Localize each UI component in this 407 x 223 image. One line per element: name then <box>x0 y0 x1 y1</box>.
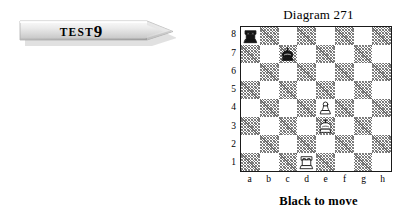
square-c1[interactable] <box>279 153 298 171</box>
square-a8[interactable] <box>241 27 260 45</box>
square-e4[interactable] <box>316 99 335 117</box>
square-f6[interactable] <box>335 63 354 81</box>
square-h2[interactable] <box>372 135 391 153</box>
file-label-d: d <box>297 173 316 185</box>
square-a6[interactable] <box>241 63 260 81</box>
square-g6[interactable] <box>354 63 373 81</box>
square-c8[interactable] <box>279 27 298 45</box>
square-h7[interactable] <box>372 45 391 63</box>
square-b3[interactable] <box>260 117 279 135</box>
diagram-title: Diagram 271 <box>222 6 397 23</box>
square-c7[interactable] <box>279 45 298 63</box>
square-d6[interactable] <box>297 63 316 81</box>
rank-labels: 87654321 <box>222 26 238 172</box>
square-a2[interactable] <box>241 135 260 153</box>
square-e6[interactable] <box>316 63 335 81</box>
square-c5[interactable] <box>279 81 298 99</box>
rank-label-4: 4 <box>222 99 238 117</box>
square-b7[interactable] <box>260 45 279 63</box>
rank-label-1: 1 <box>222 154 238 172</box>
piece-white-rook-d1[interactable] <box>297 153 316 171</box>
square-g5[interactable] <box>354 81 373 99</box>
file-label-a: a <box>240 173 259 185</box>
square-e8[interactable] <box>316 27 335 45</box>
square-c2[interactable] <box>279 135 298 153</box>
piece-black-rook-a8[interactable] <box>241 27 260 45</box>
square-d3[interactable] <box>297 117 316 135</box>
square-a5[interactable] <box>241 81 260 99</box>
square-f5[interactable] <box>335 81 354 99</box>
square-a4[interactable] <box>241 99 260 117</box>
rank-label-6: 6 <box>222 63 238 81</box>
rank-label-5: 5 <box>222 81 238 99</box>
square-h5[interactable] <box>372 81 391 99</box>
diagram-caption: Black to move <box>222 194 397 209</box>
square-d4[interactable] <box>297 99 316 117</box>
square-e3[interactable] <box>316 117 335 135</box>
file-label-f: f <box>335 173 354 185</box>
square-d7[interactable] <box>297 45 316 63</box>
square-e5[interactable] <box>316 81 335 99</box>
square-b8[interactable] <box>260 27 279 45</box>
test-banner-word: TEST <box>60 26 94 38</box>
square-h8[interactable] <box>372 27 391 45</box>
square-e1[interactable] <box>316 153 335 171</box>
test-banner-label: TEST9 <box>17 21 145 41</box>
square-b6[interactable] <box>260 63 279 81</box>
square-b4[interactable] <box>260 99 279 117</box>
square-d8[interactable] <box>297 27 316 45</box>
rank-label-3: 3 <box>222 117 238 135</box>
square-c4[interactable] <box>279 99 298 117</box>
square-e7[interactable] <box>316 45 335 63</box>
piece-white-king-e3[interactable] <box>316 117 335 135</box>
square-c6[interactable] <box>279 63 298 81</box>
square-g7[interactable] <box>354 45 373 63</box>
square-b2[interactable] <box>260 135 279 153</box>
piece-black-king-c7[interactable] <box>279 45 298 63</box>
square-g3[interactable] <box>354 117 373 135</box>
piece-white-pawn-e4[interactable] <box>316 99 335 117</box>
square-d1[interactable] <box>297 153 316 171</box>
square-c3[interactable] <box>279 117 298 135</box>
square-a3[interactable] <box>241 117 260 135</box>
board-grid <box>241 27 391 171</box>
square-h4[interactable] <box>372 99 391 117</box>
square-h3[interactable] <box>372 117 391 135</box>
file-label-h: h <box>373 173 392 185</box>
file-label-b: b <box>259 173 278 185</box>
square-f3[interactable] <box>335 117 354 135</box>
test-banner-number: 9 <box>94 22 103 41</box>
square-g2[interactable] <box>354 135 373 153</box>
square-b1[interactable] <box>260 153 279 171</box>
file-label-c: c <box>278 173 297 185</box>
chessboard[interactable] <box>240 26 392 172</box>
file-labels: abcdefgh <box>240 173 392 185</box>
square-f2[interactable] <box>335 135 354 153</box>
square-f8[interactable] <box>335 27 354 45</box>
file-label-e: e <box>316 173 335 185</box>
square-h1[interactable] <box>372 153 391 171</box>
file-label-g: g <box>354 173 373 185</box>
square-e2[interactable] <box>316 135 335 153</box>
square-h6[interactable] <box>372 63 391 81</box>
square-f1[interactable] <box>335 153 354 171</box>
square-d5[interactable] <box>297 81 316 99</box>
square-b5[interactable] <box>260 81 279 99</box>
rank-label-2: 2 <box>222 136 238 154</box>
square-a1[interactable] <box>241 153 260 171</box>
chess-diagram: Diagram 271 87654321 abcdefgh Black to m… <box>222 6 397 209</box>
rank-label-8: 8 <box>222 26 238 44</box>
square-d2[interactable] <box>297 135 316 153</box>
square-g1[interactable] <box>354 153 373 171</box>
square-f4[interactable] <box>335 99 354 117</box>
square-f7[interactable] <box>335 45 354 63</box>
rank-label-7: 7 <box>222 44 238 62</box>
square-a7[interactable] <box>241 45 260 63</box>
test-banner: TEST9 <box>17 12 176 49</box>
board-area: 87654321 abcdefgh <box>222 26 397 176</box>
square-g4[interactable] <box>354 99 373 117</box>
square-g8[interactable] <box>354 27 373 45</box>
